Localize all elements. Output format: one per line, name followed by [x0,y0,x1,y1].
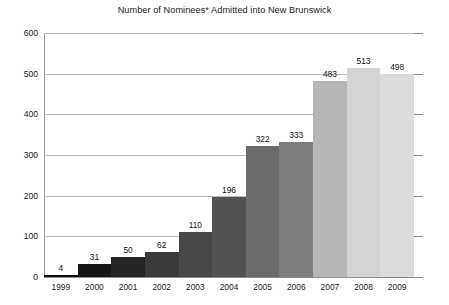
plot-area [44,33,414,277]
bar-value-label: 513 [347,57,381,65]
axis-tick-mark [414,33,423,34]
bar [279,142,313,277]
x-axis-tick-label: 2007 [313,283,347,291]
bar [111,257,145,277]
x-axis-tick-label: 2002 [145,283,179,291]
bar-value-label: 333 [279,131,313,139]
x-axis-tick-label: 2003 [179,283,213,291]
x-axis-tick-label: 2009 [380,283,414,291]
chart-title: Number of Nominees* Admitted into New Br… [0,5,449,15]
axis-tick-mark [414,236,423,237]
gridline [44,33,414,34]
bar [78,264,112,277]
axis-tick-mark [414,74,423,75]
x-axis-tick-label: 2000 [78,283,112,291]
x-axis-tick-label: 2005 [246,283,280,291]
x-axis-tick-label: 2006 [279,283,313,291]
bar [380,74,414,277]
bar [347,68,381,277]
y-axis-tick-label: 200 [2,192,38,201]
bar-chart-figure: Number of Nominees* Admitted into New Br… [0,0,449,305]
y-axis-tick-label: 500 [2,70,38,79]
bar [246,146,280,277]
bar-value-label: 498 [380,63,414,71]
axis-tick-mark [414,155,423,156]
bar-value-label: 196 [212,186,246,194]
x-axis-tick-label: 2008 [347,283,381,291]
bar-value-label: 50 [111,246,145,254]
y-axis-tick-label: 300 [2,151,38,160]
x-axis-tick-label: 2001 [111,283,145,291]
y-axis-tick-label: 600 [2,29,38,38]
bar-value-label: 483 [313,70,347,78]
bar-value-label: 322 [246,135,280,143]
bar [44,275,78,277]
x-axis-tick-label: 2004 [212,283,246,291]
axis-tick-mark [414,277,423,278]
x-axis-tick-label: 1999 [44,283,78,291]
bar-value-label: 62 [145,241,179,249]
bar [145,252,179,277]
bar [212,197,246,277]
bar-value-label: 31 [78,253,112,261]
gridline [44,277,414,278]
bar [179,232,213,277]
y-axis-tick-label: 0 [2,273,38,282]
bar-value-label: 4 [44,264,78,272]
bar-value-label: 110 [179,221,213,229]
bar [313,81,347,277]
axis-tick-mark [414,196,423,197]
y-axis-tick-label: 400 [2,110,38,119]
axis-tick-mark [414,114,423,115]
y-axis-tick-label: 100 [2,232,38,241]
